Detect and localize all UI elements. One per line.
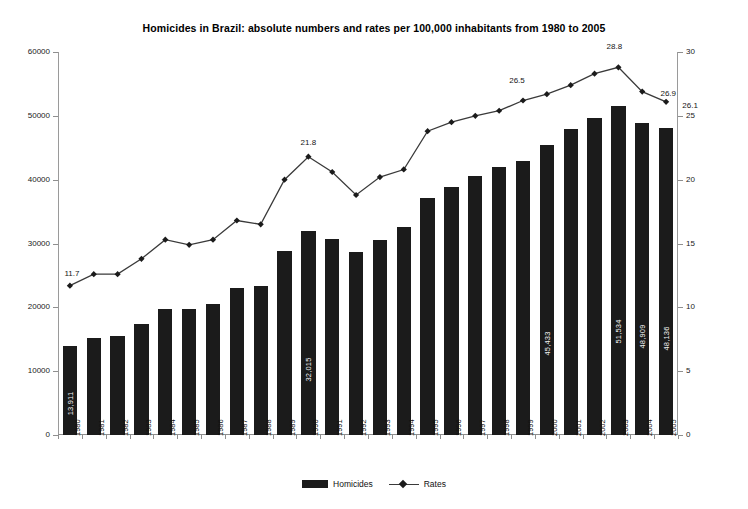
rate-value-label-2003: 28.8 <box>607 42 623 51</box>
x-axis-tick <box>249 435 250 439</box>
legend-item-homicides: Homicides <box>302 479 373 489</box>
rate-marker-1988[interactable] <box>258 221 264 227</box>
x-axis-label-1999: 1999 <box>527 419 535 436</box>
x-axis-label-1990: 1990 <box>312 419 320 436</box>
rate-value-label-2005: 26.1 <box>682 101 698 110</box>
x-axis-label-1994: 1994 <box>408 419 416 436</box>
legend-item-rates: Rates <box>389 479 446 489</box>
x-axis-label-2000: 2000 <box>551 419 559 436</box>
rate-marker-2005[interactable] <box>663 99 669 105</box>
rate-value-label-1999: 26.5 <box>509 76 525 85</box>
rate-value-label-1980: 11.7 <box>64 269 79 278</box>
x-axis-tick <box>296 435 297 439</box>
rate-marker-2001[interactable] <box>568 82 574 88</box>
y-axis-left-tick-label: 60000 <box>4 48 50 56</box>
y-axis-right-tick <box>678 52 683 53</box>
rate-marker-1980[interactable] <box>67 283 73 289</box>
x-axis-label-1983: 1983 <box>145 419 153 436</box>
x-axis-tick <box>654 435 655 439</box>
plot-area: 0100002000030000400005000060000 05101520… <box>58 52 678 435</box>
chart-title: Homicides in Brazil: absolute numbers an… <box>0 22 748 34</box>
y-axis-left-tick-label: 30000 <box>4 240 50 248</box>
chart-container: Homicides in Brazil: absolute numbers an… <box>0 0 748 509</box>
line-marker-swatch-icon <box>389 480 419 488</box>
y-axis-right-tick <box>678 307 683 308</box>
x-axis-tick <box>559 435 560 439</box>
bar-swatch-icon <box>302 480 328 488</box>
x-axis-label-1988: 1988 <box>265 419 273 436</box>
x-axis-tick <box>58 435 59 439</box>
rate-marker-1981[interactable] <box>91 271 97 277</box>
rate-marker-1985[interactable] <box>186 242 192 248</box>
x-axis-label-2004: 2004 <box>646 419 654 436</box>
x-axis-tick <box>153 435 154 439</box>
x-axis-tick <box>106 435 107 439</box>
y-axis-right-tick-label: 30 <box>686 48 726 56</box>
x-axis-tick <box>273 435 274 439</box>
rate-marker-1996[interactable] <box>448 119 454 125</box>
x-axis-label-1986: 1986 <box>217 419 225 436</box>
y-axis-right-tick <box>678 180 683 181</box>
y-axis-right-tick-label: 15 <box>686 240 726 248</box>
rate-marker-2000[interactable] <box>544 91 550 97</box>
rate-marker-1999[interactable] <box>520 97 526 103</box>
x-axis-tick <box>583 435 584 439</box>
x-axis-tick <box>201 435 202 439</box>
x-axis-tick <box>344 435 345 439</box>
x-axis-label-1997: 1997 <box>479 419 487 436</box>
x-axis-label-1989: 1989 <box>289 419 297 436</box>
y-axis-right-tick <box>678 116 683 117</box>
rate-value-label-2004: 26.9 <box>660 89 676 98</box>
y-axis-left-tick-label: 50000 <box>4 112 50 120</box>
x-axis-label-1981: 1981 <box>98 419 106 436</box>
x-axis-label-1996: 1996 <box>455 419 463 436</box>
y-axis-left-tick-label: 40000 <box>4 176 50 184</box>
y-axis-right-tick-label: 25 <box>686 112 726 120</box>
y-axis-right-tick-label: 10 <box>686 303 726 311</box>
chart-legend: Homicides Rates <box>0 479 748 489</box>
y-axis-right-tick-label: 20 <box>686 176 726 184</box>
y-axis-right-tick <box>678 244 683 245</box>
x-axis-tick <box>177 435 178 439</box>
x-axis-label-2002: 2002 <box>599 419 607 436</box>
legend-label-rates: Rates <box>424 479 446 489</box>
x-axis-label-1982: 1982 <box>122 419 130 436</box>
x-axis-tick <box>225 435 226 439</box>
x-axis-tick <box>130 435 131 439</box>
x-axis-tick <box>416 435 417 439</box>
x-axis-label-1992: 1992 <box>360 419 368 436</box>
x-axis-tick <box>487 435 488 439</box>
y-axis-right-tick-label: 0 <box>686 431 726 439</box>
x-axis-tick <box>463 435 464 439</box>
x-axis-label-1995: 1995 <box>432 419 440 436</box>
x-axis-tick <box>511 435 512 439</box>
x-axis-label-1993: 1993 <box>384 419 392 436</box>
rate-marker-1995[interactable] <box>425 128 431 134</box>
y-axis-left-tick-label: 0 <box>4 431 50 439</box>
x-axis-tick <box>440 435 441 439</box>
x-axis-label-1984: 1984 <box>169 419 177 436</box>
x-axis-label-1987: 1987 <box>241 419 249 436</box>
rate-marker-1997[interactable] <box>472 113 478 119</box>
rate-marker-2002[interactable] <box>591 71 597 77</box>
rate-marker-1998[interactable] <box>496 108 502 114</box>
x-axis-label-2001: 2001 <box>575 419 583 436</box>
x-axis-label-2003: 2003 <box>622 419 630 436</box>
y-axis-left-tick-label: 20000 <box>4 303 50 311</box>
y-axis-left-tick-label: 10000 <box>4 367 50 375</box>
y-axis-right-tick-label: 5 <box>686 367 726 375</box>
x-axis-tick <box>678 435 679 439</box>
x-axis-tick <box>535 435 536 439</box>
x-axis-label-2005: 2005 <box>670 419 678 436</box>
y-axis-right-tick <box>678 371 683 372</box>
line-series-rates <box>58 52 678 435</box>
x-axis-label-1998: 1998 <box>503 419 511 436</box>
rate-value-label-1990: 21.8 <box>301 138 317 147</box>
x-axis-tick <box>368 435 369 439</box>
x-axis-tick <box>392 435 393 439</box>
x-axis-label-1980: 1980 <box>74 419 82 436</box>
x-axis-label-1991: 1991 <box>336 419 344 436</box>
x-axis-tick <box>82 435 83 439</box>
x-axis-tick <box>320 435 321 439</box>
x-axis-tick <box>630 435 631 439</box>
